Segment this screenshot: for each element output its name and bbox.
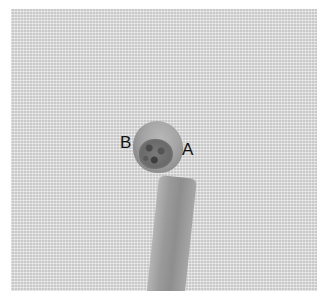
specimen-photo: [11, 9, 317, 291]
label-b: B: [120, 134, 131, 151]
specimen-stalk: [144, 175, 196, 291]
specimen-tissue-detail: [139, 139, 173, 169]
label-a: A: [182, 141, 193, 158]
